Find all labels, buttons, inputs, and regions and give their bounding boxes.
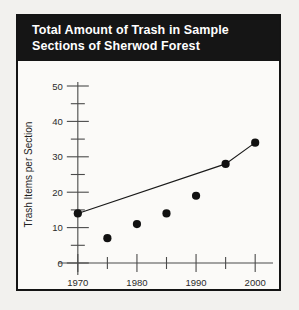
chart-plot-area: 010203040501970198019902000YearTrash Ite… (18, 61, 279, 291)
chart-title-line-2: Sections of Sherwod Forest (32, 38, 279, 54)
y-tick-label-30: 30 (52, 151, 63, 162)
y-axis-title: Trash Items per Section (23, 122, 34, 228)
x-tick-label-2000: 2000 (245, 277, 266, 288)
y-tick-label-50: 50 (52, 81, 63, 92)
y-tick-label-0: 0 (58, 258, 63, 269)
data-point-1990 (192, 192, 200, 200)
data-point-1995 (222, 160, 230, 168)
data-point-2000 (251, 139, 259, 147)
data-point-1980 (133, 220, 141, 228)
data-point-1975 (103, 234, 111, 242)
x-tick-label-1970: 1970 (67, 277, 88, 288)
trend-line (78, 143, 255, 214)
chart-figure-frame: Total Amount of Trash in Sample Sections… (16, 14, 281, 291)
y-tick-label-40: 40 (52, 116, 63, 127)
data-point-1970 (74, 209, 82, 217)
chart-title-bar: Total Amount of Trash in Sample Sections… (18, 16, 279, 61)
x-tick-label-1980: 1980 (126, 277, 147, 288)
data-point-1985 (162, 209, 170, 217)
x-tick-label-1990: 1990 (185, 277, 206, 288)
line-chart-svg: 010203040501970198019902000YearTrash Ite… (18, 61, 279, 291)
y-tick-label-20: 20 (52, 187, 63, 198)
chart-title-line-1: Total Amount of Trash in Sample (32, 22, 279, 38)
y-tick-label-10: 10 (52, 222, 63, 233)
